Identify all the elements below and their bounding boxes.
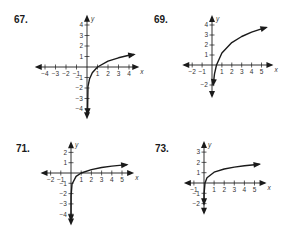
- y-tick-label: 3: [79, 32, 83, 39]
- arrow-up-icon: [84, 15, 90, 22]
- curve-arrow-icon: [68, 214, 74, 222]
- curve-arrow-icon: [253, 162, 261, 168]
- y-tick-label: −1: [60, 180, 68, 187]
- x-tick-label: 2: [106, 70, 110, 77]
- x-axis-label: x: [134, 174, 139, 181]
- curve-arrow-icon: [128, 53, 136, 59]
- x-tick-label: 4: [243, 186, 247, 193]
- x-tick-label: −2: [47, 176, 55, 183]
- x-tick-label: 3: [240, 68, 244, 75]
- graph-71: −2−112345−4−3−2−112xy: [41, 141, 140, 225]
- x-tick-label: 4: [127, 70, 131, 77]
- y-tick-label: 1: [79, 53, 83, 60]
- curve-arrow-icon: [201, 198, 207, 206]
- y-tick-label: 2: [79, 42, 83, 49]
- curve: [88, 54, 135, 114]
- y-tick-label: 2: [204, 41, 208, 48]
- arrow-right-icon: [266, 62, 273, 68]
- x-axis-label: x: [139, 68, 144, 75]
- graph-69: −2−112345−21234xy: [182, 15, 278, 98]
- y-tick-label: 3: [204, 31, 208, 38]
- arrow-right-icon: [132, 64, 139, 70]
- y-tick-label: 4: [79, 21, 83, 28]
- x-tick-label: −2: [188, 68, 196, 75]
- x-tick-label: 3: [117, 70, 121, 77]
- arrow-down-icon: [209, 91, 215, 98]
- y-tick-label: 2: [63, 149, 67, 156]
- x-tick-label: −1: [198, 68, 206, 75]
- x-tick-label: 5: [253, 186, 257, 193]
- arrow-right-icon: [260, 180, 267, 186]
- graphs-canvas: −4−3−2−11234−4−3−2−11234xy−2−112345−2123…: [0, 0, 284, 240]
- y-tick-label: −4: [76, 105, 84, 112]
- y-tick-label: −4: [60, 211, 68, 218]
- y-tick-label: −2: [60, 190, 68, 197]
- y-tick-label: −1: [76, 74, 84, 81]
- x-tick-label: 1: [96, 70, 100, 77]
- x-tick-label: 3: [100, 176, 104, 183]
- x-axis-label: x: [267, 184, 272, 191]
- y-tick-label: 1: [196, 169, 200, 176]
- arrow-up-icon: [201, 141, 207, 148]
- arrow-up-icon: [209, 15, 215, 22]
- y-tick-label: 2: [196, 159, 200, 166]
- y-axis-label: y: [74, 141, 79, 149]
- y-axis-label: y: [90, 15, 95, 23]
- x-tick-label: 4: [250, 68, 254, 75]
- y-axis-label: y: [215, 15, 220, 23]
- x-tick-label: 2: [230, 68, 234, 75]
- y-tick-label: 1: [63, 159, 67, 166]
- y-tick-label: −1: [193, 190, 201, 197]
- x-tick-label: 2: [222, 186, 226, 193]
- graph-67: −4−3−2−11234−4−3−2−11234xy: [35, 15, 145, 120]
- arrow-up-icon: [68, 141, 74, 148]
- y-tick-label: −2: [193, 200, 201, 207]
- x-tick-label: −2: [62, 70, 70, 77]
- x-tick-label: 5: [260, 68, 264, 75]
- x-tick-label: 1: [79, 176, 83, 183]
- y-axis-label: y: [207, 141, 212, 149]
- arrow-down-icon: [201, 208, 207, 215]
- x-tick-label: −3: [52, 70, 60, 77]
- curve: [213, 27, 266, 85]
- x-tick-label: 5: [120, 176, 124, 183]
- x-tick-label: 2: [90, 176, 94, 183]
- y-tick-label: −3: [60, 200, 68, 207]
- arrow-right-icon: [127, 170, 134, 176]
- x-tick-label: 3: [232, 186, 236, 193]
- x-tick-label: 1: [212, 186, 216, 193]
- y-tick-label: −2: [76, 84, 84, 91]
- x-tick-label: 1: [220, 68, 224, 75]
- x-tick-label: −4: [41, 70, 49, 77]
- curve-arrow-icon: [260, 26, 268, 32]
- y-tick-label: 4: [204, 21, 208, 28]
- y-tick-label: −3: [76, 95, 84, 102]
- y-tick-label: 1: [204, 51, 208, 58]
- x-axis-label: x: [273, 66, 278, 73]
- curve: [204, 164, 260, 204]
- x-tick-label: 4: [110, 176, 114, 183]
- y-tick-label: −2: [201, 81, 209, 88]
- y-tick-label: 3: [196, 148, 200, 155]
- graph-73: −112345−2−1123xy: [184, 141, 272, 215]
- curve-arrow-icon: [121, 162, 129, 168]
